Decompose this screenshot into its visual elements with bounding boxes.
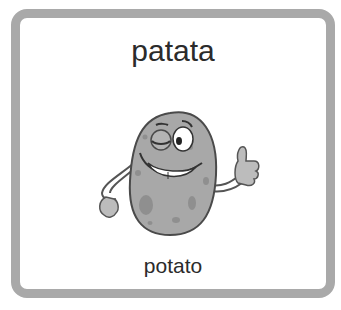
flashcard: patata potato	[11, 9, 335, 298]
card-subtitle: potato	[20, 254, 326, 278]
card-title: patata	[20, 34, 326, 68]
potato-illustration	[90, 95, 270, 245]
